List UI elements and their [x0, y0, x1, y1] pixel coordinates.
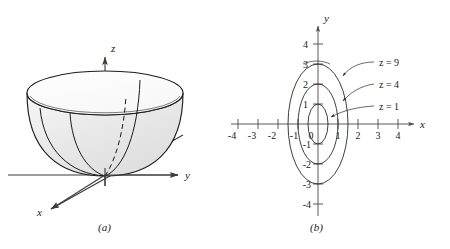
y-tick-label-4: 4: [303, 39, 308, 50]
axis-label-x-a: x: [36, 206, 42, 218]
leader-line-z4: [343, 84, 374, 101]
x-tick-label-2: 2: [356, 130, 361, 141]
caption-b: (b): [310, 221, 323, 234]
axis-label-x-b: x: [419, 118, 425, 130]
axis-label-y-b: y: [323, 12, 329, 24]
contour-label-z1: z = 1: [379, 101, 399, 112]
contour-label-z9: z = 9: [379, 57, 399, 68]
axis-x-front-segment: [51, 175, 105, 209]
panel-b: -4 -3 -2 -1 1 2 3 4 4 3 2 1 -1 -2 -3 -4 …: [228, 12, 425, 234]
caption-a: (a): [98, 221, 111, 234]
panel-a: z y x (a): [8, 42, 190, 234]
x-tick-label-4: 4: [396, 130, 401, 141]
x-tick-label--2: -2: [268, 130, 276, 141]
y-tick-label-2: 2: [303, 79, 308, 90]
axis-label-y-a: y: [184, 169, 190, 181]
y-tick-label--4: -4: [303, 199, 311, 210]
figure-root: z y x (a): [0, 0, 450, 249]
x-tick-label--4: -4: [228, 130, 236, 141]
y-tick-label-1: 1: [303, 99, 308, 110]
axis-label-z-a: z: [110, 42, 116, 54]
paraboloid-rim-ellipse: [27, 71, 183, 115]
contour-label-z4: z = 4: [379, 79, 399, 90]
y-tick-label--3: -3: [303, 179, 311, 190]
x-tick-label--3: -3: [248, 130, 256, 141]
leader-line-z9: [343, 62, 374, 76]
origin-label: 0: [309, 130, 314, 141]
x-tick-label-3: 3: [376, 130, 381, 141]
x-tick-label--1: -1: [290, 130, 298, 141]
